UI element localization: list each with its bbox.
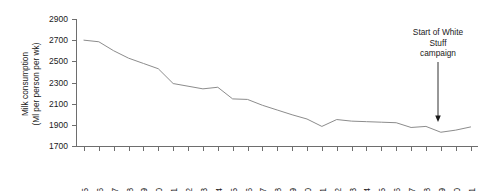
annotation-line1: Start of White	[413, 27, 464, 37]
x-tick-label-1993: 1993	[349, 188, 358, 191]
x-tick-label-2001: 2001	[468, 188, 477, 191]
x-tick-label-2000: 2000	[453, 188, 462, 191]
down-arrow-icon	[435, 116, 441, 123]
y-axis-title-line1: Milk consumption	[20, 52, 30, 116]
x-tick-label-1989: 1989	[289, 188, 298, 191]
y-tick-label-2500: 2500	[49, 56, 68, 66]
x-tick-label-1981: 1981	[170, 188, 179, 191]
x-tick-label-1999: 1999	[438, 188, 447, 191]
y-tick-label-1900: 1900	[49, 120, 68, 130]
x-axis-tick-labels: 1975197619771978197919801981198219831984…	[81, 188, 477, 191]
y-axis-title-line2: (Ml per person per wk)	[31, 42, 41, 125]
x-tick-label-1975: 1975	[81, 188, 90, 191]
x-tick-label-1983: 1983	[200, 188, 209, 191]
milk-consumption-chart: Milk consumption (Ml per person per wk) …	[0, 0, 493, 191]
x-axis-tick-marks	[85, 147, 472, 152]
x-tick-label-1998: 1998	[423, 188, 432, 191]
y-tick-label-2300: 2300	[49, 78, 68, 88]
y-tick-label-2700: 2700	[49, 35, 68, 45]
x-tick-label-1982: 1982	[185, 188, 194, 191]
x-tick-label-1994: 1994	[363, 188, 372, 191]
y-axis-title: Milk consumption (Ml per person per wk)	[20, 42, 41, 125]
y-tick-label-2900: 2900	[49, 14, 68, 24]
x-tick-label-1976: 1976	[96, 188, 105, 191]
x-axis	[77, 147, 479, 152]
chart-canvas: Milk consumption (Ml per person per wk) …	[0, 0, 493, 191]
annotation-line2: Stuff	[430, 38, 448, 48]
x-tick-label-1978: 1978	[126, 188, 135, 191]
y-axis-tick-labels: 2900 2700 2500 2300 2100 1900 1700	[49, 14, 68, 151]
y-axis	[72, 19, 77, 146]
milk-consumption-line	[84, 40, 471, 132]
annotation-line3: campaign	[420, 48, 456, 58]
x-tick-label-1987: 1987	[259, 188, 268, 191]
x-tick-label-1995: 1995	[378, 188, 387, 191]
x-tick-label-1980: 1980	[155, 188, 164, 191]
x-tick-label-1988: 1988	[274, 188, 283, 191]
x-tick-label-1996: 1996	[393, 188, 402, 191]
x-tick-label-1990: 1990	[304, 188, 313, 191]
campaign-annotation: Start of White Stuff campaign	[413, 27, 464, 122]
x-tick-label-1984: 1984	[215, 188, 224, 191]
x-tick-label-1992: 1992	[334, 188, 343, 191]
y-tick-label-2100: 2100	[49, 99, 68, 109]
x-tick-label-1991: 1991	[319, 188, 328, 191]
y-tick-label-1700: 1700	[49, 141, 68, 151]
x-tick-label-1997: 1997	[408, 188, 417, 191]
x-tick-label-1979: 1979	[140, 188, 149, 191]
x-tick-label-1977: 1977	[111, 188, 120, 191]
x-tick-label-1985: 1985	[230, 188, 239, 191]
x-tick-label-1986: 1986	[245, 188, 254, 191]
data-series-group	[84, 40, 471, 132]
